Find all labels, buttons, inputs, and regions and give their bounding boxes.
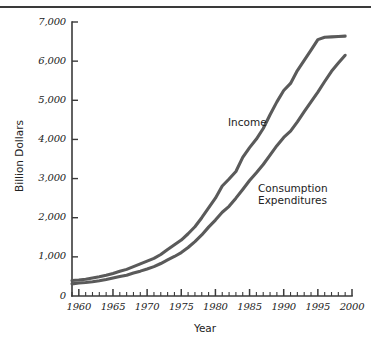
y-tick-label: 6,000 [10,55,66,66]
chart-series-lines [72,36,345,284]
chart-ticks [72,22,352,296]
series-label-consumption: Consumption Expenditures [258,182,328,206]
y-tick-label: 0 [10,290,66,301]
y-tick-label: 7,000 [10,16,66,27]
chart-figure: 01,0002,0003,0004,0005,0006,0007,000 196… [0,0,371,350]
x-axis-title: Year [145,322,265,334]
y-tick-label: 2,000 [10,211,66,222]
y-axis-title: Billion Dollars [13,113,25,199]
series-line-consumption [72,55,345,284]
y-tick-label: 5,000 [10,94,66,105]
series-label-income: Income [228,116,267,128]
series-label-consumption-line1: Consumption [258,182,328,194]
chart-axes [72,22,352,296]
x-tick-label: 2000 [332,301,371,312]
y-tick-label: 1,000 [10,250,66,261]
series-label-consumption-line2: Expenditures [258,194,328,206]
series-line-income [72,36,345,280]
